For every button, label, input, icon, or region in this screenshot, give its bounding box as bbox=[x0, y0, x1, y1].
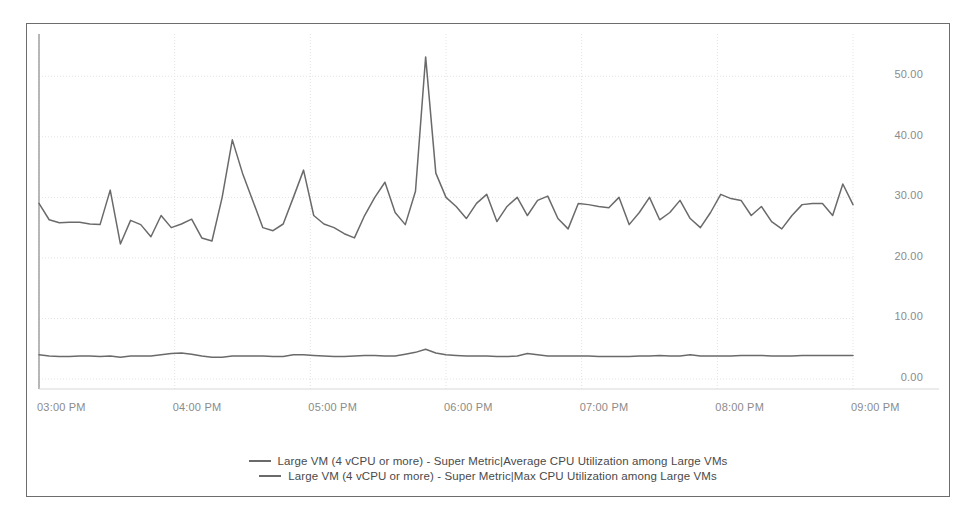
legend-item-label: Large VM (4 vCPU or more) - Super Metric… bbox=[288, 470, 717, 482]
chart-legend: Large VM (4 vCPU or more) - Super Metric… bbox=[27, 455, 949, 482]
y-axis-tick-label: 20.00 bbox=[859, 250, 923, 262]
gridlines-group bbox=[39, 34, 853, 389]
series-line-max bbox=[39, 57, 853, 244]
legend-line-icon bbox=[259, 475, 281, 477]
x-axis-tick-label: 08:00 PM bbox=[715, 401, 764, 413]
y-axis-tick-label: 10.00 bbox=[859, 310, 923, 322]
x-axis-tick-label: 07:00 PM bbox=[580, 401, 629, 413]
chart-widget: 0.0010.0020.0030.0040.0050.00 03:00 PM04… bbox=[26, 23, 950, 497]
y-axis-tick-label: 40.00 bbox=[859, 129, 923, 141]
chart-canvas bbox=[27, 24, 949, 496]
y-axis-tick-label: 50.00 bbox=[859, 68, 923, 80]
x-axis-tick-label: 05:00 PM bbox=[308, 401, 357, 413]
axis-lines-group bbox=[39, 34, 939, 389]
legend-line-icon bbox=[249, 460, 271, 462]
series-line-average bbox=[39, 349, 853, 357]
x-axis-tick-label: 04:00 PM bbox=[173, 401, 222, 413]
chart-plot-area: 0.0010.0020.0030.0040.0050.00 03:00 PM04… bbox=[27, 24, 949, 496]
y-axis-tick-label: 30.00 bbox=[859, 189, 923, 201]
x-axis-tick-label: 06:00 PM bbox=[444, 401, 493, 413]
legend-item-average[interactable]: Large VM (4 vCPU or more) - Super Metric… bbox=[249, 455, 728, 467]
x-axis-tick-label: 03:00 PM bbox=[37, 401, 86, 413]
legend-item-max[interactable]: Large VM (4 vCPU or more) - Super Metric… bbox=[259, 470, 717, 482]
legend-item-label: Large VM (4 vCPU or more) - Super Metric… bbox=[278, 455, 728, 467]
y-axis-tick-label: 0.00 bbox=[859, 371, 923, 383]
series-lines-group bbox=[39, 57, 853, 357]
x-axis-tick-label: 09:00 PM bbox=[851, 401, 900, 413]
